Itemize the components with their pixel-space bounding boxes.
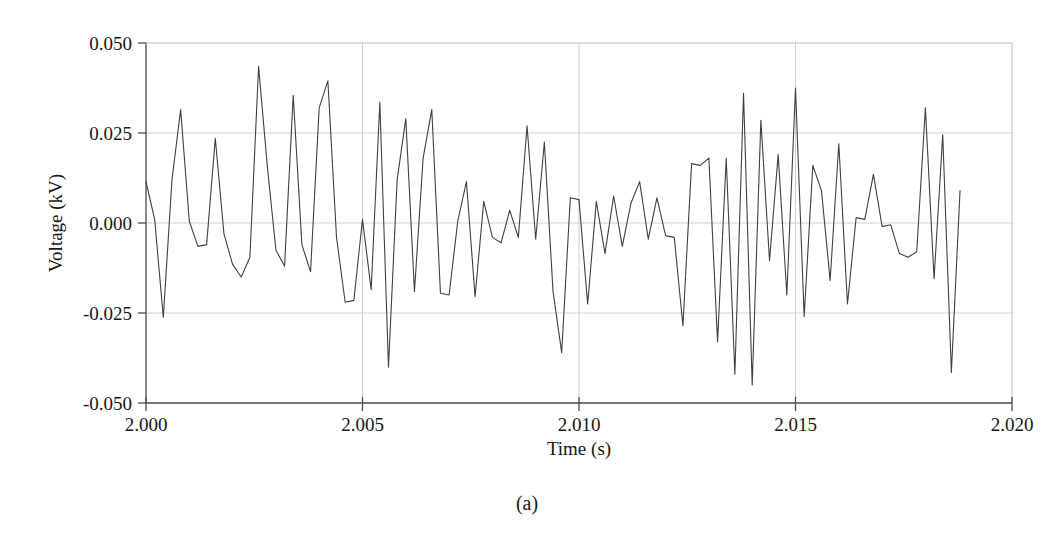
x-tick-labels: 2.0002.0052.0102.0152.020 [125, 414, 1034, 435]
y-axis-title: Voltage (kV) [45, 174, 67, 272]
x-tick-label: 2.020 [991, 414, 1034, 435]
x-tick-label: 2.000 [125, 414, 168, 435]
y-tick-labels: -0.050-0.0250.0000.0250.050 [83, 33, 132, 414]
y-tick-label: -0.050 [83, 393, 132, 414]
x-tick-label: 2.015 [774, 414, 817, 435]
y-tick-label: -0.025 [83, 303, 132, 324]
y-tick-label: 0.025 [89, 123, 132, 144]
x-tick-label: 2.010 [558, 414, 601, 435]
figure-caption: (a) [0, 492, 1054, 515]
figure-panel: -0.050-0.0250.0000.0250.050 2.0002.0052.… [0, 0, 1054, 559]
x-tick-label: 2.005 [341, 414, 384, 435]
y-tick-label: 0.050 [89, 33, 132, 54]
y-tick-label: 0.000 [89, 213, 132, 234]
voltage-time-chart: -0.050-0.0250.0000.0250.050 2.0002.0052.… [0, 0, 1054, 492]
x-axis-title: Time (s) [547, 438, 611, 460]
